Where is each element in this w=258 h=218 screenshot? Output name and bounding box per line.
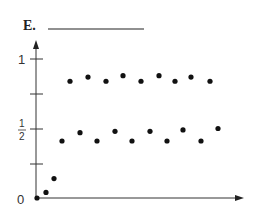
data-point	[94, 138, 99, 143]
y-label-half-den: 2	[19, 131, 25, 142]
data-point	[59, 138, 64, 143]
data-point	[120, 73, 125, 78]
y-label-1: 1	[18, 52, 25, 67]
data-point	[112, 129, 117, 134]
data-point	[77, 130, 82, 135]
data-point	[138, 79, 143, 84]
data-points	[34, 73, 220, 201]
data-point	[156, 73, 161, 78]
data-point	[147, 129, 152, 134]
data-point	[103, 79, 108, 84]
data-point	[67, 79, 72, 84]
data-point	[85, 74, 90, 79]
data-point	[172, 79, 177, 84]
y-label-half-num: 1	[19, 118, 25, 129]
plot-area: 1 1 2 0	[0, 0, 258, 218]
data-point	[51, 176, 56, 181]
data-point	[180, 127, 185, 132]
y-label-0: 0	[17, 192, 24, 207]
y-axis-arrow-icon	[33, 40, 39, 49]
data-point	[43, 190, 48, 195]
data-point	[129, 138, 134, 143]
data-point	[164, 138, 169, 143]
data-point	[215, 126, 220, 131]
data-point	[198, 138, 203, 143]
chart: E. 1 1 2 0	[0, 0, 258, 218]
data-point	[207, 79, 212, 84]
data-point	[188, 74, 193, 79]
x-axis-arrow-icon	[235, 195, 244, 201]
data-point	[34, 195, 39, 200]
